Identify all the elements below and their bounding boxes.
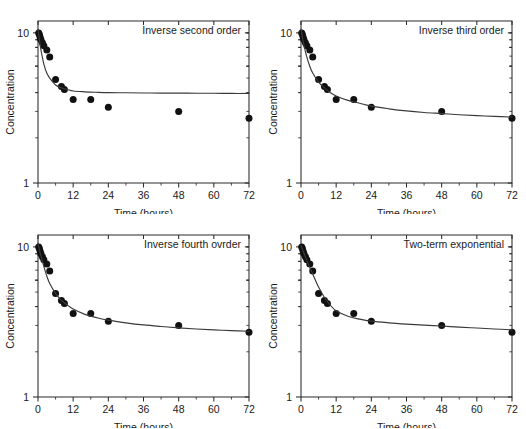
x-tick-label: 36 bbox=[138, 189, 150, 201]
y-axis-label: Concentration bbox=[267, 283, 279, 349]
y-tick-label: 1 bbox=[23, 177, 29, 189]
x-tick-label: 48 bbox=[173, 403, 185, 415]
data-point bbox=[70, 96, 77, 103]
x-tick-label: 12 bbox=[67, 189, 79, 201]
x-tick-label: 60 bbox=[471, 189, 483, 201]
y-axis-label: Concentration bbox=[4, 283, 16, 349]
plot-frame bbox=[301, 235, 512, 397]
x-axis-label: Time (hours) bbox=[114, 421, 173, 428]
fit-curve bbox=[38, 243, 249, 331]
plot-0: 0122436486072110Time (hours)Concentratio… bbox=[0, 0, 263, 214]
data-point bbox=[175, 108, 182, 115]
y-axis-ticks bbox=[296, 247, 512, 397]
x-tick-label: 36 bbox=[138, 403, 150, 415]
y-tick-label: 1 bbox=[286, 391, 292, 403]
x-tick-label: 0 bbox=[298, 189, 304, 201]
x-tick-label: 12 bbox=[330, 403, 342, 415]
panel-title: Two-term exponential bbox=[404, 238, 504, 250]
y-axis-ticks bbox=[296, 33, 512, 183]
y-axis-label: Concentration bbox=[267, 69, 279, 135]
figure-panel-grid: 0122436486072110Time (hours)Concentratio… bbox=[0, 0, 526, 429]
panel-title: Inverse fourth ovrder bbox=[144, 238, 241, 250]
data-point bbox=[70, 310, 77, 317]
data-point bbox=[46, 268, 53, 275]
x-tick-label: 0 bbox=[35, 403, 41, 415]
x-axis-ticks bbox=[38, 235, 249, 402]
fit-curve bbox=[301, 29, 512, 117]
x-tick-label: 36 bbox=[401, 403, 413, 415]
data-point bbox=[509, 115, 516, 122]
panel-inverse-third-order: 0122436486072110Time (hours)Concentratio… bbox=[263, 0, 526, 214]
y-tick-label: 10 bbox=[280, 27, 292, 39]
data-point bbox=[246, 329, 253, 336]
x-tick-label: 72 bbox=[243, 189, 255, 201]
plot-frame bbox=[38, 235, 249, 397]
plot-frame bbox=[38, 21, 249, 183]
y-axis-ticks bbox=[33, 247, 249, 397]
data-point bbox=[246, 115, 253, 122]
y-axis-ticks bbox=[33, 33, 249, 183]
data-point bbox=[350, 310, 357, 317]
x-axis-ticks bbox=[301, 21, 512, 188]
y-tick-label: 10 bbox=[17, 241, 29, 253]
plot-3: 0122436486072110Time (hours)Concentratio… bbox=[263, 214, 526, 428]
y-tick-label: 10 bbox=[17, 27, 29, 39]
y-tick-label: 1 bbox=[23, 391, 29, 403]
x-tick-label: 24 bbox=[365, 189, 377, 201]
x-tick-label: 72 bbox=[506, 189, 518, 201]
x-axis-label: Time (hours) bbox=[377, 421, 436, 428]
x-axis-label: Time (hours) bbox=[377, 207, 436, 214]
x-tick-label: 60 bbox=[208, 189, 220, 201]
x-tick-label: 12 bbox=[330, 189, 342, 201]
x-tick-label: 0 bbox=[298, 403, 304, 415]
x-tick-label: 48 bbox=[173, 189, 185, 201]
x-tick-label: 48 bbox=[436, 189, 448, 201]
x-tick-label: 24 bbox=[365, 403, 377, 415]
panel-two-term-exponential: 0122436486072110Time (hours)Concentratio… bbox=[263, 214, 526, 428]
panel-inverse-second-order: 0122436486072110Time (hours)Concentratio… bbox=[0, 0, 263, 214]
x-tick-label: 0 bbox=[35, 189, 41, 201]
x-tick-label: 36 bbox=[401, 189, 413, 201]
x-tick-label: 60 bbox=[208, 403, 220, 415]
panel-inverse-fourth-order: 0122436486072110Time (hours)Concentratio… bbox=[0, 214, 263, 428]
data-point bbox=[43, 46, 50, 53]
y-tick-label: 1 bbox=[286, 177, 292, 189]
y-tick-label: 10 bbox=[280, 241, 292, 253]
x-axis-label: Time (hours) bbox=[114, 207, 173, 214]
fit-curve bbox=[301, 246, 512, 330]
x-tick-label: 12 bbox=[67, 403, 79, 415]
plot-2: 0122436486072110Time (hours)Concentratio… bbox=[0, 214, 263, 428]
panel-title: Inverse second order bbox=[142, 24, 241, 36]
data-point-series bbox=[298, 29, 515, 121]
x-tick-label: 72 bbox=[506, 403, 518, 415]
plot-frame bbox=[301, 21, 512, 183]
fit-curve bbox=[38, 29, 249, 93]
x-tick-label: 24 bbox=[102, 403, 114, 415]
plot-1: 0122436486072110Time (hours)Concentratio… bbox=[263, 0, 526, 214]
x-tick-label: 60 bbox=[471, 403, 483, 415]
data-point-series bbox=[35, 243, 252, 335]
data-point bbox=[46, 54, 53, 61]
data-point bbox=[105, 104, 112, 111]
x-axis-ticks bbox=[301, 235, 512, 402]
x-tick-label: 72 bbox=[243, 403, 255, 415]
data-point bbox=[87, 96, 94, 103]
data-point bbox=[105, 318, 112, 325]
x-tick-label: 24 bbox=[102, 189, 114, 201]
x-tick-label: 48 bbox=[436, 403, 448, 415]
y-axis-label: Concentration bbox=[4, 69, 16, 135]
data-point bbox=[309, 54, 316, 61]
data-point bbox=[306, 46, 313, 53]
x-axis-ticks bbox=[38, 21, 249, 188]
data-point-series bbox=[35, 29, 252, 121]
panel-title: Inverse third order bbox=[419, 24, 505, 36]
data-point-series bbox=[298, 243, 515, 335]
